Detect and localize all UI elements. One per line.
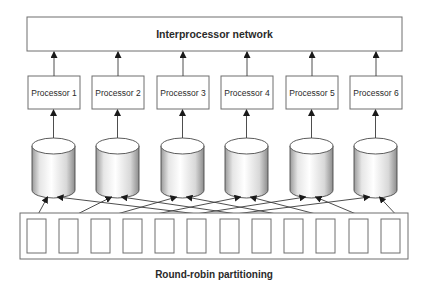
processor-label: Processor 4	[224, 88, 270, 98]
round-robin-partition	[20, 213, 408, 259]
record-1	[27, 219, 46, 253]
disk-top	[354, 138, 397, 154]
disk-top	[96, 138, 139, 154]
record-8	[252, 219, 271, 253]
processor-label: Processor 3	[160, 88, 206, 98]
processor-4: Processor 4	[221, 52, 273, 109]
disk-3	[161, 110, 204, 198]
network-title: Interprocessor network	[156, 28, 273, 40]
disk-5	[290, 110, 333, 198]
disk-top	[290, 138, 333, 154]
record-9	[284, 219, 303, 253]
disk-top	[161, 138, 204, 154]
disk-2	[96, 110, 139, 198]
processor-label: Processor 5	[289, 88, 335, 98]
processor-label: Processor 6	[353, 88, 399, 98]
processor-5: Processor 5	[286, 52, 338, 109]
processor-1: Processor 1	[28, 52, 80, 109]
record-11	[349, 219, 368, 253]
record-5	[155, 219, 174, 253]
record-10	[316, 219, 335, 253]
record-3	[91, 219, 110, 253]
disk-top	[225, 138, 268, 154]
partitioning-title: Round-robin partitioning	[155, 269, 273, 280]
record-2	[59, 219, 78, 253]
record-4	[123, 219, 142, 253]
disk-top	[32, 138, 75, 154]
round-robin-diagram: Interprocessor network Processor 1Proces…	[0, 0, 429, 286]
processors-row: Processor 1Processor 2Processor 3Process…	[28, 52, 402, 109]
record-12	[381, 219, 400, 253]
processor-label: Processor 2	[95, 88, 141, 98]
disk-1	[32, 110, 75, 198]
record-6	[187, 219, 206, 253]
disks-row	[32, 110, 397, 198]
interprocessor-network: Interprocessor network	[27, 17, 402, 51]
processor-3: Processor 3	[157, 52, 209, 109]
disk-4	[225, 110, 268, 198]
processor-6: Processor 6	[350, 52, 402, 109]
record-7	[220, 219, 239, 253]
processor-label: Processor 1	[31, 88, 77, 98]
diagram-canvas: Interprocessor network Processor 1Proces…	[0, 0, 429, 286]
disk-6	[354, 110, 397, 198]
processor-2: Processor 2	[92, 52, 144, 109]
